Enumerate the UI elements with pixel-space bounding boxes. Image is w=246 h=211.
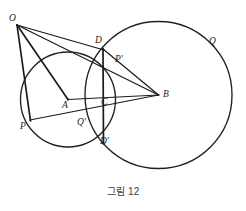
point-label-P-prime: P' <box>115 55 123 65</box>
point-label-A: A <box>62 101 68 111</box>
point-label-D: D <box>95 36 102 46</box>
point-label-D-prime: D' <box>100 137 109 147</box>
point-label-Q: Q <box>209 37 216 47</box>
point-label-C: C <box>101 98 107 108</box>
segment-O-A <box>17 25 68 100</box>
vertex-dot-B <box>157 94 159 96</box>
point-label-O: O <box>9 14 16 24</box>
point-label-Q-prime: Q' <box>77 118 86 128</box>
point-label-B: B <box>163 90 169 100</box>
figure-caption: 그림 12 <box>0 183 246 198</box>
geometry-canvas <box>0 0 246 211</box>
geometry-figure: O D P' Q A C B P Q' D' 그림 12 <box>0 0 246 211</box>
segment-O-B <box>17 25 159 95</box>
vertex-dot-D <box>102 48 104 50</box>
point-label-P: P <box>20 122 26 132</box>
